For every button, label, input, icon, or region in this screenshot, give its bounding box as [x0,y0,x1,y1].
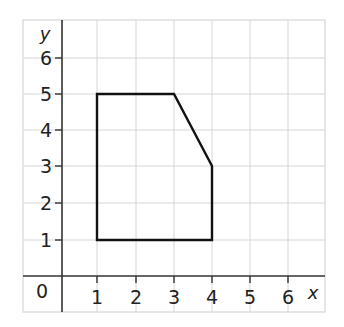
y-tick-label-2: 2 [40,192,52,214]
x-tick-label-6: 6 [282,286,294,308]
y-axis-label: y [39,23,51,44]
x-axis-label: x [307,282,319,303]
x-tick-label-1: 1 [91,286,103,308]
y-tick-label-4: 4 [40,119,52,141]
y-tick-label-6: 6 [40,47,52,69]
x-tick-label-2: 2 [130,286,142,308]
y-ticks [55,58,62,240]
x-tick-label-3: 3 [168,286,180,308]
x-tick-label-5: 5 [244,286,256,308]
coordinate-grid: 1 2 3 4 5 6 1 2 3 4 5 6 0 x y [0,0,344,327]
origin-label: 0 [36,280,48,302]
y-tick-label-1: 1 [40,229,52,251]
x-tick-label-4: 4 [206,286,218,308]
x-ticks [97,276,288,283]
pentagon-shape [97,94,212,240]
y-tick-label-3: 3 [40,155,52,177]
y-tick-label-5: 5 [40,83,52,105]
